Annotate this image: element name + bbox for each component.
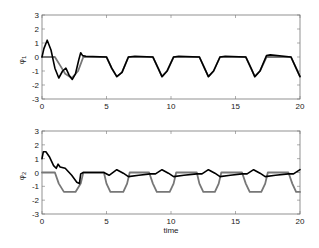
y-tick-label: 3	[35, 127, 40, 136]
x-tick-label: 0	[40, 102, 45, 111]
subplot-phi2: 3210-1-2-3 05101520 φ2 time	[17, 127, 305, 235]
x-tick-label: 15	[231, 217, 240, 226]
x-tick-label: 5	[104, 217, 109, 226]
y-tick-label: -3	[32, 210, 40, 219]
x-tick-label: 10	[167, 217, 176, 226]
x-tick-label: 10	[167, 102, 176, 111]
y-tick-label: 0	[35, 169, 40, 178]
plot-area-phi1	[42, 15, 300, 99]
y-tick-label: 2	[35, 141, 40, 150]
y-tick-label: 2	[35, 25, 40, 34]
y-axis-label-phi1: φ1	[17, 55, 27, 64]
y-tick-label: -3	[32, 95, 40, 104]
y-tick-label: 1	[35, 39, 40, 48]
x-tick-label: 0	[40, 217, 45, 226]
y-tick-label: -2	[32, 196, 40, 205]
y-tick-label: 1	[35, 155, 40, 164]
y-tick-label: -1	[32, 67, 40, 76]
y-tick-label: 0	[35, 53, 40, 62]
y-tick-label: -2	[32, 81, 40, 90]
x-tick-label: 15	[231, 102, 240, 111]
y-tick-label: 3	[35, 11, 40, 20]
subplot-phi1: 3210-1-2-3 05101520 φ1	[17, 11, 305, 111]
x-tick-label: 20	[296, 217, 305, 226]
x-tick-label: 20	[296, 102, 305, 111]
x-axis-label-time: time	[163, 226, 179, 235]
y-axis-label-phi2: φ2	[17, 171, 27, 180]
figure: 3210-1-2-3 05101520 φ1 3210-1-2-3 051015…	[0, 0, 319, 248]
x-tick-label: 5	[104, 102, 109, 111]
plot-area-phi2	[42, 131, 300, 214]
y-tick-label: -1	[32, 182, 40, 191]
